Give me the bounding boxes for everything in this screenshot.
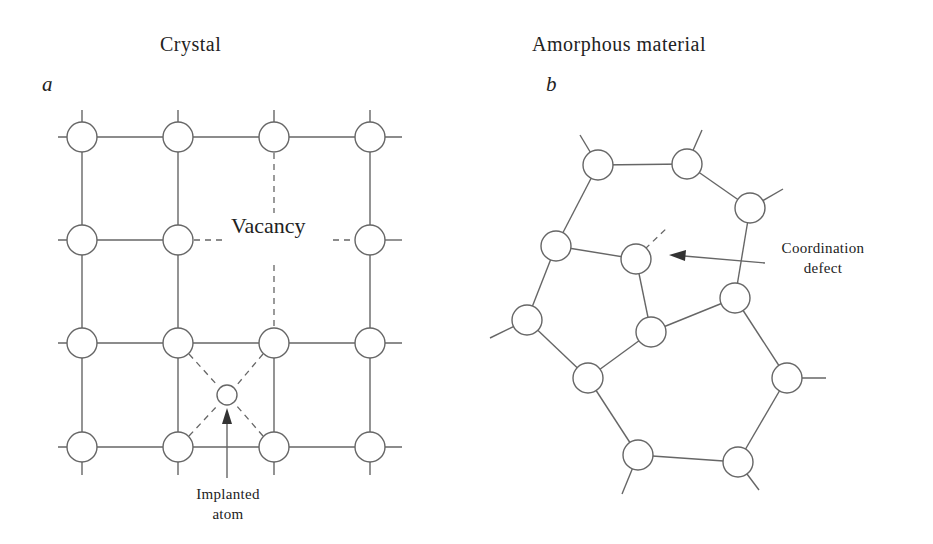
crystal-atom: [163, 432, 193, 462]
crystal-atom: [259, 328, 289, 358]
defect-atom: [621, 244, 651, 274]
implanted-atom: [217, 385, 237, 405]
crystal-atom: [67, 225, 97, 255]
vacancy-label: Vacancy: [229, 213, 308, 239]
crystal-atom: [259, 122, 289, 152]
crystal-atom: [355, 225, 385, 255]
amorphous-atom: [735, 193, 765, 223]
amorphous-atom: [623, 440, 653, 470]
crystal-atom: [355, 432, 385, 462]
crystal-atom: [163, 122, 193, 152]
dangling-bond: [645, 227, 668, 249]
crystal-atom: [355, 122, 385, 152]
crystal-atom: [355, 328, 385, 358]
crystal-title: Crystal: [160, 33, 221, 56]
crystal-atom: [259, 432, 289, 462]
arrow-head-icon: [669, 250, 686, 261]
amorphous-title: Amorphous material: [532, 33, 706, 56]
amorphous-atom: [720, 283, 750, 313]
amorphous-network: [490, 130, 826, 494]
amorphous-atom: [723, 447, 753, 477]
amorphous-atom: [541, 231, 571, 261]
implanted-atom-label: Implanted atom: [180, 484, 276, 524]
crystal-atom: [163, 328, 193, 358]
amorphous-atom: [672, 149, 702, 179]
crystal-atom: [67, 432, 97, 462]
amorphous-atom: [772, 363, 802, 393]
crystal-atom: [67, 122, 97, 152]
amorphous-atom: [512, 305, 542, 335]
amorphous-atom: [573, 363, 603, 393]
coordination-defect-label: Coordination defect: [767, 238, 879, 278]
defect-arrow: [684, 256, 765, 263]
amorphous-atom: [636, 317, 666, 347]
crystal-atom: [67, 328, 97, 358]
panel-letter-b: b: [546, 72, 557, 97]
amorphous-atom: [583, 150, 613, 180]
panel-letter-a: a: [42, 72, 53, 97]
crystal-atom: [163, 225, 193, 255]
arrow-head-icon: [222, 408, 232, 424]
crystal-lattice: [58, 110, 402, 478]
